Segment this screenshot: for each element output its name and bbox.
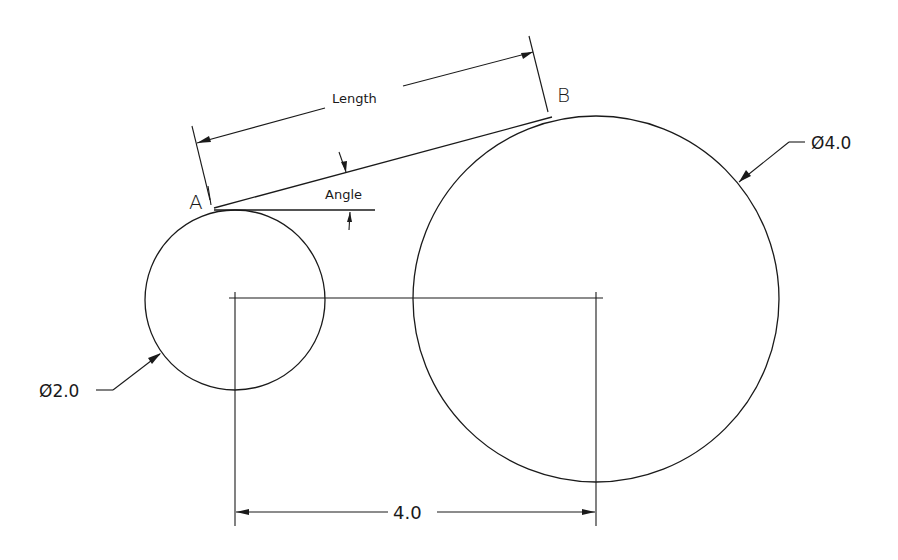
cad-drawing-canvas: Length Angle A B Ø2.0 Ø4.0 4.0 (0, 0, 898, 560)
length-label: Length (332, 91, 377, 106)
center-distance-arrow-right-icon (582, 509, 595, 515)
small-diameter-label: Ø2.0 (39, 381, 79, 401)
small-circle-diameter-callout: Ø2.0 (39, 353, 161, 401)
center-distance-dimension: 4.0 (236, 502, 595, 523)
length-dimension: Length (192, 36, 548, 200)
angle-dimension: Angle (325, 152, 362, 230)
length-dimension-line-left (197, 108, 325, 143)
angle-label: Angle (325, 187, 362, 202)
angle-arrow-upper-icon (341, 161, 347, 172)
large-diameter-label: Ø4.0 (811, 133, 851, 153)
tangent-line-ab (214, 117, 552, 208)
length-dimension-line-right (403, 52, 533, 86)
center-distance-label: 4.0 (393, 502, 422, 523)
length-arrow-left-icon (197, 136, 211, 143)
point-a-label: A (189, 190, 203, 214)
large-diameter-arrow-icon (739, 170, 751, 182)
center-distance-arrow-left-icon (236, 509, 249, 515)
centerlines (229, 292, 603, 526)
large-circle-diameter-callout: Ø4.0 (739, 133, 851, 182)
length-arrow-right-icon (521, 52, 533, 59)
length-extension-line-b (529, 36, 548, 112)
point-b-label: B (557, 83, 570, 107)
